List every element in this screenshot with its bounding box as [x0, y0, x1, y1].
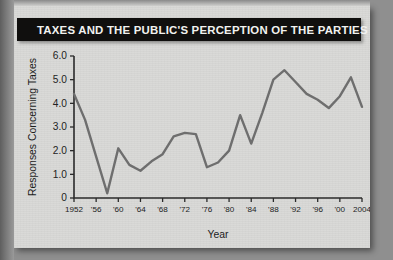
- y-axis-ticks: 01.02.03.04.05.06.0: [53, 50, 74, 203]
- y-tick-label: 1.0: [53, 169, 67, 180]
- line-chart-svg: 01.02.03.04.05.06.0 1952'56'60'64'68'72'…: [14, 46, 370, 246]
- y-tick-label: 0: [61, 192, 67, 203]
- x-tick-label: '00: [335, 205, 346, 214]
- x-tick-label: '88: [268, 205, 279, 214]
- x-tick-label: 1952: [65, 205, 84, 214]
- x-tick-label: '96: [312, 205, 323, 214]
- chart-figure: 01.02.03.04.05.06.0 1952'56'60'64'68'72'…: [14, 46, 370, 246]
- chart-title-text: TAXES AND THE PUBLIC'S PERCEPTION OF THE…: [17, 24, 368, 36]
- x-tick-label: '56: [91, 205, 102, 214]
- y-tick-label: 3.0: [53, 121, 67, 132]
- y-tick-label: 4.0: [53, 98, 67, 109]
- axis-lines: [74, 56, 362, 198]
- x-tick-label: '60: [113, 205, 124, 214]
- x-tick-label: '72: [179, 205, 190, 214]
- x-tick-label: '92: [290, 205, 301, 214]
- page-top-edge-shadow: [14, 0, 370, 6]
- page-left-edge-shadow: [0, 0, 14, 260]
- x-tick-label: '80: [224, 205, 235, 214]
- x-tick-label: '84: [246, 205, 257, 214]
- y-axis-title: Responses Concerning Taxes: [27, 58, 38, 196]
- data-series-line: [74, 70, 362, 193]
- x-tick-label: '76: [202, 205, 213, 214]
- x-tick-label: '68: [157, 205, 168, 214]
- y-tick-label: 5.0: [53, 74, 67, 85]
- y-tick-label: 2.0: [53, 145, 67, 156]
- chart-title-banner: TAXES AND THE PUBLIC'S PERCEPTION OF THE…: [17, 18, 361, 41]
- x-tick-label: '64: [135, 205, 146, 214]
- y-tick-label: 6.0: [53, 50, 67, 61]
- x-axis-ticks: 1952'56'60'64'68'72'76'80'84'88'92'96'00…: [65, 198, 370, 214]
- x-tick-label: 2004: [353, 205, 370, 214]
- x-axis-title: Year: [208, 229, 230, 240]
